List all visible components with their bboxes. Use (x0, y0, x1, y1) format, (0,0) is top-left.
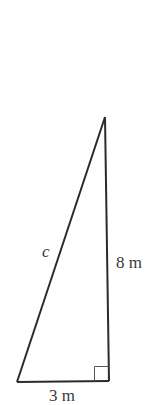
base-line (17, 381, 109, 382)
triangle-diagram: c 8 m 3 m (0, 0, 160, 405)
vertical-leg-line (105, 117, 109, 381)
hypotenuse-line (17, 117, 105, 382)
vertical-leg-label: 8 m (116, 253, 142, 272)
hypotenuse-label: c (42, 242, 50, 261)
triangle (17, 117, 109, 382)
right-angle-marker (95, 367, 109, 382)
base-label: 3 m (49, 386, 75, 405)
